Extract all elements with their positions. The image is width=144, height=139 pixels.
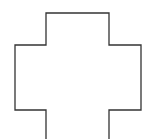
cross-shape-diagram bbox=[0, 0, 144, 139]
cross-outline-path bbox=[15, 13, 141, 139]
